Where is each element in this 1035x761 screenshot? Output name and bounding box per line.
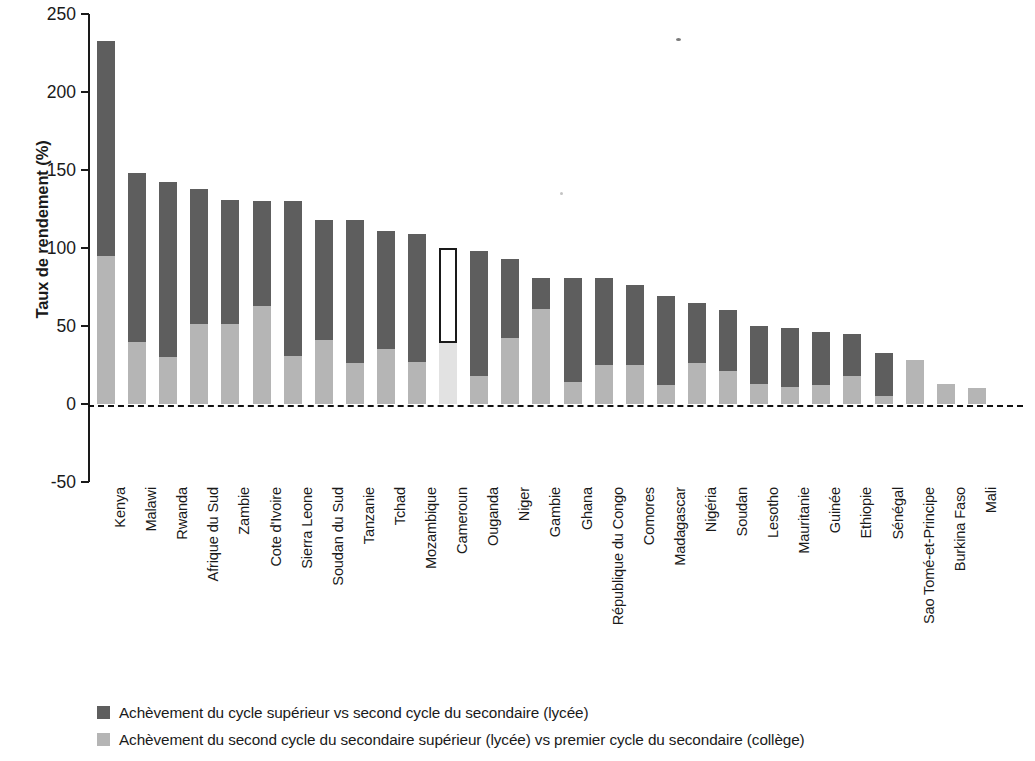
x-axis-label-s-n-gal: Sénégal <box>890 487 906 540</box>
bar-niger[interactable] <box>501 259 519 404</box>
x-axis-label-guin-e: Guinée <box>827 487 843 533</box>
bar-segment-lower <box>221 324 239 404</box>
x-axis-label-mali: Mali <box>983 487 999 513</box>
chart-figure: Taux de rendement (%) -50050100150200250… <box>0 0 1035 761</box>
bar-r-publique-du-congo[interactable] <box>595 278 613 404</box>
bar-segment-lower <box>564 382 582 404</box>
bar-tanzanie[interactable] <box>346 220 364 404</box>
bar-guin-e[interactable] <box>812 332 830 404</box>
bar-sierra-leone[interactable] <box>284 201 302 404</box>
y-axis-tick-label: -50 <box>51 472 76 493</box>
legend-swatch-lower <box>97 733 110 746</box>
bar-cameroun[interactable] <box>439 248 457 404</box>
x-axis-label-sao-tom-et-principe: Sao Tomé-et-Principe <box>921 487 937 624</box>
bar-segment-lower <box>439 343 457 404</box>
y-axis-tick-label: 200 <box>47 82 76 103</box>
bar-rwanda[interactable] <box>159 182 177 404</box>
x-axis-label-mauritanie: Mauritanie <box>796 487 812 554</box>
bar-segment-upper <box>812 332 830 385</box>
y-axis-tick-label: 150 <box>47 160 76 181</box>
bar-zambie[interactable] <box>221 200 239 404</box>
bar-segment-upper <box>346 220 364 364</box>
bar-segment-upper <box>97 41 115 256</box>
bar-cote-d-ivoire[interactable] <box>253 201 271 404</box>
bar-segment-upper <box>781 328 799 387</box>
bar-segment-upper <box>532 278 550 309</box>
legend-item: Achèvement du second cycle du secondaire… <box>97 730 1017 749</box>
x-axis-label-malawi: Malawi <box>143 487 159 532</box>
x-axis-label-niger: Niger <box>516 487 532 521</box>
bar-tchad[interactable] <box>377 231 395 404</box>
bar-segment-upper <box>719 310 737 371</box>
bar-kenya[interactable] <box>97 41 115 404</box>
bar-ouganda[interactable] <box>470 251 488 404</box>
bar-ethiopie[interactable] <box>843 334 861 404</box>
bar-segment-lower <box>315 340 333 404</box>
bar-segment-upper <box>875 353 893 397</box>
x-axis-label-rwanda: Rwanda <box>174 487 190 540</box>
bar-segment-upper <box>253 201 271 306</box>
bar-segment-upper <box>595 278 613 365</box>
bar-segment-upper <box>159 182 177 357</box>
bar-gambie[interactable] <box>532 278 550 404</box>
bar-segment-upper <box>470 251 488 376</box>
x-axis-label-ouganda: Ouganda <box>485 487 501 546</box>
bar-segment-lower <box>408 362 426 404</box>
x-axis-label-zambie: Zambie <box>236 487 252 535</box>
bar-comores[interactable] <box>626 285 644 404</box>
x-axis-label-lesotho: Lesotho <box>765 487 781 538</box>
bar-burkina-faso[interactable] <box>937 384 955 404</box>
bar-segment-lower <box>190 324 208 404</box>
bar-segment-lower <box>688 363 706 404</box>
bar-segment-upper <box>128 173 146 341</box>
bar-segment-upper <box>564 278 582 383</box>
x-axis-label-tanzanie: Tanzanie <box>361 487 377 544</box>
bar-segment-lower <box>781 387 799 404</box>
bar-segment-lower <box>284 356 302 404</box>
bar-madagascar[interactable] <box>657 296 675 404</box>
bar-segment-lower <box>346 363 364 404</box>
bar-segment-upper <box>439 248 457 343</box>
bar-segment-upper <box>408 234 426 362</box>
x-axis-label-burkina-faso: Burkina Faso <box>952 487 968 571</box>
bar-mozambique[interactable] <box>408 234 426 404</box>
legend-label-lower: Achèvement du second cycle du secondaire… <box>119 730 805 749</box>
x-axis-label-tchad: Tchad <box>392 487 408 525</box>
x-axis-tick-labels: KenyaMalawiRwandaAfrique du SudZambieCot… <box>88 487 1023 687</box>
bar-ghana[interactable] <box>564 278 582 404</box>
bar-segment-upper <box>501 259 519 339</box>
chart-legend: Achèvement du cycle supérieur vs second … <box>97 703 1017 757</box>
bar-mali[interactable] <box>968 388 986 404</box>
bar-sao-tom-et-principe[interactable] <box>906 360 924 404</box>
x-axis-label-sierra-leone: Sierra Leone <box>299 487 315 569</box>
bar-soudan[interactable] <box>719 310 737 404</box>
y-axis-tick-label: 0 <box>66 394 76 415</box>
x-axis-label-soudan-du-sud: Soudan du Sud <box>330 487 346 586</box>
x-axis-label-comores: Comores <box>641 487 657 545</box>
bar-malawi[interactable] <box>128 173 146 404</box>
bar-segment-upper <box>688 303 706 364</box>
x-axis-label-gambie: Gambie <box>547 487 563 537</box>
bar-segment-upper <box>657 296 675 385</box>
y-axis-tick-labels: -50050100150200250 <box>0 14 84 482</box>
scan-speck <box>560 192 563 195</box>
bar-segment-lower <box>906 360 924 404</box>
bar-segment-lower <box>657 385 675 404</box>
bar-lesotho[interactable] <box>750 326 768 404</box>
bar-segment-lower <box>470 376 488 404</box>
bar-segment-lower <box>843 376 861 404</box>
bar-segment-lower <box>626 365 644 404</box>
bar-mauritanie[interactable] <box>781 328 799 404</box>
bar-segment-upper <box>626 285 644 365</box>
bar-segment-upper <box>284 201 302 355</box>
bar-segment-lower <box>253 306 271 404</box>
bar-nig-ria[interactable] <box>688 303 706 404</box>
bar-s-n-gal[interactable] <box>875 353 893 404</box>
bar-segment-lower <box>812 385 830 404</box>
bar-soudan-du-sud[interactable] <box>315 220 333 404</box>
y-axis-tick-label: 100 <box>47 238 76 259</box>
bar-afrique-du-sud[interactable] <box>190 189 208 404</box>
y-axis-tick-label: 250 <box>47 4 76 25</box>
x-axis-label-mozambique: Mozambique <box>423 487 439 569</box>
x-axis-label-afrique-du-sud: Afrique du Sud <box>205 487 221 581</box>
